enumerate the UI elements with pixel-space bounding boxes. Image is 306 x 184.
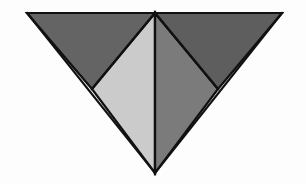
subdivided-triangle-figure xyxy=(0,0,306,184)
